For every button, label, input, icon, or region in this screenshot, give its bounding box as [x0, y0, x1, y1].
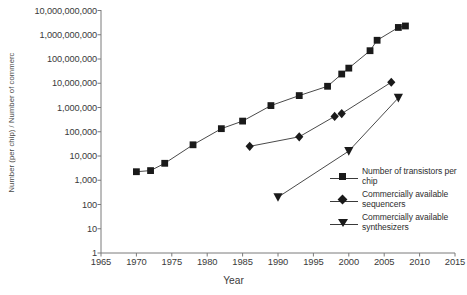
data-point — [374, 37, 381, 44]
chart-figure: Number (per chip) / Number of commercial… — [0, 0, 467, 295]
data-point — [344, 147, 353, 156]
plot-canvas — [0, 0, 467, 295]
legend-item: Number of transistors per chip — [330, 168, 467, 189]
data-point — [133, 168, 140, 175]
data-point — [296, 92, 303, 99]
diamond-marker-icon — [330, 195, 358, 207]
series-0 — [133, 23, 409, 176]
legend-item: Commercially available sequencers — [330, 191, 467, 212]
data-point — [147, 167, 154, 174]
data-point — [190, 141, 197, 148]
legend-label: Number of transistors per chip — [362, 167, 467, 186]
data-point — [338, 109, 346, 118]
data-point — [295, 132, 303, 141]
legend-label: Commercially available sequencers — [362, 190, 467, 209]
data-point — [218, 125, 225, 132]
data-point — [367, 47, 374, 54]
data-point — [268, 102, 275, 109]
data-point — [324, 83, 331, 90]
data-point — [331, 112, 339, 121]
square-marker-icon — [330, 172, 358, 184]
data-point — [161, 160, 168, 167]
data-point — [402, 23, 409, 30]
data-point — [395, 24, 402, 31]
data-point — [387, 78, 395, 87]
data-point — [338, 71, 345, 78]
data-point — [273, 193, 282, 202]
chart-legend: Number of transistors per chipCommercial… — [330, 168, 467, 237]
data-point — [246, 142, 254, 151]
data-point — [239, 118, 246, 125]
triangle-down-marker-icon — [330, 218, 358, 230]
legend-item: Commercially available synthesizers — [330, 214, 467, 235]
data-point — [345, 65, 352, 72]
legend-label: Commercially available synthesizers — [362, 213, 467, 232]
